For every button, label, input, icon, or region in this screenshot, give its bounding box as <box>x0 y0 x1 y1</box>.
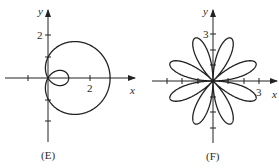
caption-e: (E) <box>41 149 55 162</box>
graph-f: y 3 3 x (F) <box>152 5 277 163</box>
y-axis-label-f: y <box>202 5 208 17</box>
graph-e: y 2 2 x (E) <box>5 5 135 162</box>
caption-f: (F) <box>206 150 220 163</box>
x-tick-label-f: 3 <box>256 86 262 98</box>
x-axis-label-e: x <box>129 84 135 96</box>
y-axis-label-e: y <box>37 5 43 17</box>
x-axis-label-f: x <box>271 88 277 100</box>
y-tick-label-f: 3 <box>203 28 209 40</box>
polar-graphs-figure: y 2 2 x (E) y 3 3 x (F) <box>0 0 279 168</box>
x-tick-label-e: 2 <box>87 82 93 94</box>
y-tick-label-e: 2 <box>37 29 43 41</box>
